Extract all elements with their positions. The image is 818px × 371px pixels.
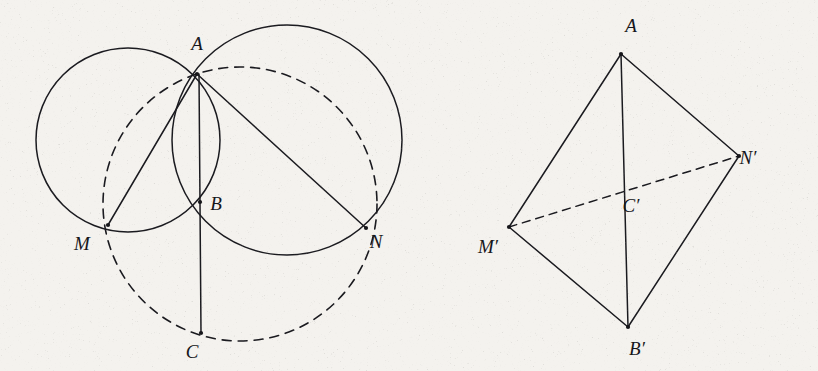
segment-a-to-n: [197, 74, 366, 228]
segment-aprime-to-bprime: [621, 54, 628, 327]
segment-aprime-to-mprime: [509, 54, 621, 227]
point-label-m: M: [73, 233, 91, 254]
vertex-dot-a: [195, 72, 199, 76]
point-label-mprime: M′: [477, 236, 499, 257]
point-label-nprime: N′: [739, 147, 758, 168]
point-label-a: A: [189, 33, 203, 54]
circle-circumscribed-dashed: [103, 67, 377, 341]
point-label-bprime: B′: [629, 338, 646, 359]
vertex-dot-mprime: [507, 225, 511, 229]
segment-aprime-to-nprime: [621, 54, 739, 156]
vertex-dot-n: [364, 226, 368, 230]
left-panel: A B C M N: [36, 25, 402, 362]
point-label-b: B: [210, 193, 222, 214]
point-label-n: N: [369, 231, 384, 252]
geometry-figure: A B C M N A B′ C′ M′ N′: [0, 0, 818, 371]
segment-a-to-m: [108, 74, 197, 225]
vertex-dot-b: [198, 200, 202, 204]
figure-canvas: A B C M N A B′ C′ M′ N′: [0, 0, 818, 371]
point-label-cprime: C′: [623, 195, 641, 216]
right-panel: A B′ C′ M′ N′: [477, 15, 757, 359]
point-label-aprime: A: [623, 15, 637, 36]
segment-nprime-to-bprime: [628, 156, 739, 327]
vertex-dot-m: [106, 223, 110, 227]
vertex-dot-bprime: [626, 325, 630, 329]
vertex-dot-c: [199, 331, 203, 335]
vertex-dot-aprime: [619, 52, 623, 56]
circle-right: [172, 25, 402, 255]
point-label-c: C: [186, 341, 199, 362]
segment-mprime-to-bprime: [509, 227, 628, 327]
